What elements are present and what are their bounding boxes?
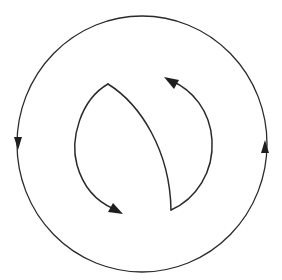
circulation-diagram xyxy=(0,0,282,280)
outer-arrow-left-down-icon xyxy=(14,137,22,150)
right-arc xyxy=(171,81,212,210)
right-arc-arrowhead-icon xyxy=(164,77,179,89)
left-arc xyxy=(75,84,114,209)
outer-arrow-right-up-icon xyxy=(261,140,269,153)
inner-divider-curve xyxy=(108,84,171,210)
outer-loop-circle xyxy=(17,16,267,272)
left-arc-arrowhead-icon xyxy=(108,203,123,214)
